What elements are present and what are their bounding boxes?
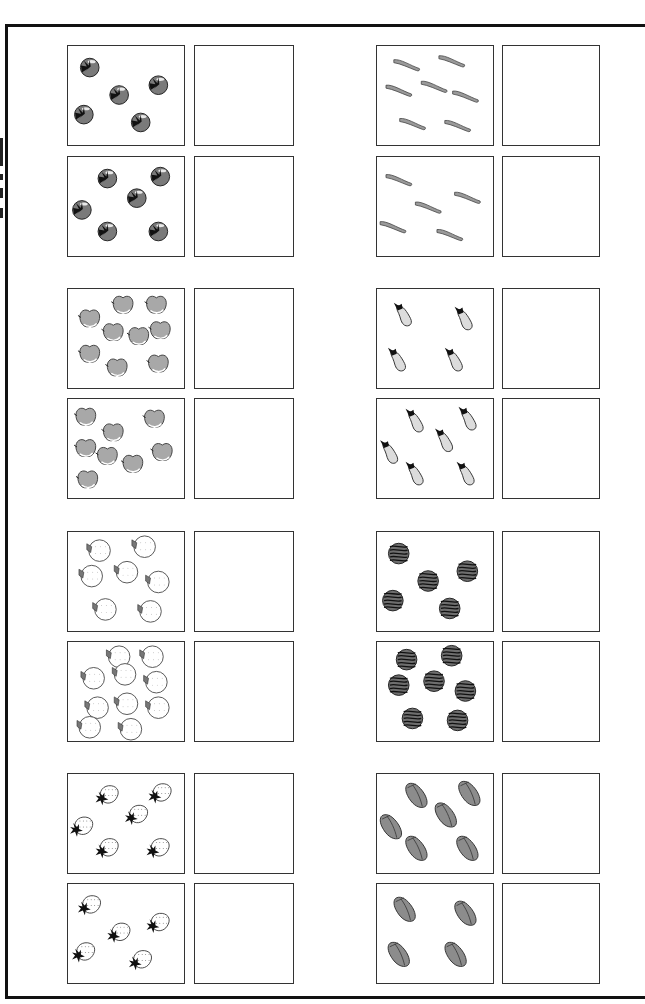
picture-box-tomato-5: [67, 45, 185, 146]
picture-box-tomato-6: [67, 156, 185, 257]
strawberry-icon-group: [68, 884, 184, 983]
answer-box-eggplant-1[interactable]: [502, 288, 600, 389]
watermelon-icon-group: [377, 532, 493, 631]
answer-box-watermelon-2[interactable]: [502, 641, 600, 742]
answer-box-orange-2[interactable]: [194, 641, 294, 742]
answer-box-watermelon-1[interactable]: [502, 531, 600, 632]
picture-box-pepper-4: [376, 883, 494, 984]
answer-box-strawberry-1[interactable]: [194, 773, 294, 874]
picture-box-apple-8: [67, 398, 185, 499]
picture-box-bean-pod-5: [376, 156, 494, 257]
answer-box-apple-1[interactable]: [194, 288, 294, 389]
picture-box-eggplant-6: [376, 398, 494, 499]
answer-box-pepper-1[interactable]: [502, 773, 600, 874]
tomato-icon-group: [68, 46, 184, 145]
picture-box-watermelon-7: [376, 641, 494, 742]
answer-box-eggplant-2[interactable]: [502, 398, 600, 499]
picture-box-bean-pod-7: [376, 45, 494, 146]
picture-box-apple-9: [67, 288, 185, 389]
picture-box-orange-10: [67, 641, 185, 742]
apple-icon-group: [68, 399, 184, 498]
binding-marks: [0, 138, 4, 218]
picture-box-orange-7: [67, 531, 185, 632]
pepper-icon-group: [377, 884, 493, 983]
answer-box-apple-2[interactable]: [194, 398, 294, 499]
answer-box-bean-pod-2[interactable]: [502, 156, 600, 257]
answer-box-orange-1[interactable]: [194, 531, 294, 632]
answer-box-bean-pod-1[interactable]: [502, 45, 600, 146]
eggplant-icon-group: [377, 289, 493, 388]
bean-pod-icon-group: [377, 157, 493, 256]
strawberry-icon-group: [68, 774, 184, 873]
answer-box-tomato-1[interactable]: [194, 45, 294, 146]
answer-box-pepper-2[interactable]: [502, 883, 600, 984]
pepper-icon-group: [377, 774, 493, 873]
watermelon-icon-group: [377, 642, 493, 741]
picture-box-pepper-6: [376, 773, 494, 874]
tomato-icon-group: [68, 157, 184, 256]
answer-box-strawberry-2[interactable]: [194, 883, 294, 984]
apple-icon-group: [68, 289, 184, 388]
picture-box-strawberry-5: [67, 883, 185, 984]
answer-box-tomato-2[interactable]: [194, 156, 294, 257]
orange-icon-group: [68, 532, 184, 631]
orange-icon-group: [68, 642, 184, 741]
picture-box-eggplant-4: [376, 288, 494, 389]
eggplant-icon-group: [377, 399, 493, 498]
picture-box-watermelon-5: [376, 531, 494, 632]
bean-pod-icon-group: [377, 46, 493, 145]
picture-box-strawberry-6: [67, 773, 185, 874]
